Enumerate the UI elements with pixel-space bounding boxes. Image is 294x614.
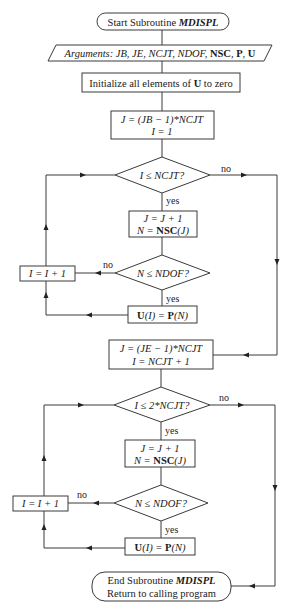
arrow-right-icon (238, 403, 244, 408)
svg-text:N ≤ NDOF?: N ≤ NDOF? (134, 498, 188, 509)
loop1-exit-line (210, 175, 277, 355)
arguments-list: JB, JE, NCJT, NDOF, (116, 48, 210, 59)
svg-text:Start Subroutine MDISPL: Start Subroutine MDISPL (108, 17, 219, 28)
arrow-left-icon (95, 271, 101, 276)
svg-text:J = (JE − 1)*NCJT: J = (JE − 1)*NCJT (120, 343, 204, 355)
svg-text:I = I + 1: I = I + 1 (21, 498, 59, 509)
svg-text:N ≤ NDOF?: N ≤ NDOF? (136, 268, 190, 279)
loop2-check-decision: N ≤ NDOF? (114, 485, 208, 521)
arrow-left-icon (86, 546, 92, 551)
return-label: Return to calling program (107, 588, 216, 599)
loop1-condition-decision: I ≤ NCJT? (115, 157, 210, 193)
svg-text:I = NCJT + 1: I = NCJT + 1 (131, 356, 190, 367)
yes-label: yes (165, 425, 178, 436)
arrow-left-icon (86, 313, 92, 318)
loop1-feedback-line (46, 175, 128, 315)
arrow-left-icon (243, 353, 249, 358)
svg-text:J = J + 1: J = J + 1 (143, 213, 182, 224)
loop2-store-process: U(I) = P(N) (125, 538, 195, 555)
loop2-condition-decision: I ≤ 2*NCJT? (114, 387, 210, 422)
yes-label: yes (166, 195, 179, 206)
svg-text:U(I) = P(N): U(I) = P(N) (137, 310, 188, 322)
arrow-right-icon (78, 403, 84, 408)
arrow-down-icon (275, 259, 280, 265)
loop2-increment-process: I = I + 1 (13, 496, 68, 511)
start-terminal: Start Subroutine MDISPL (97, 13, 229, 30)
svg-text:N = NSC(J): N = NSC(J) (133, 455, 187, 467)
svg-text:J = J + 1: J = J + 1 (140, 443, 179, 454)
end-label: End Subroutine (108, 575, 176, 586)
no-label: no (221, 163, 231, 174)
subroutine-name: MDISPL (178, 17, 219, 28)
loop2-assign-process: J = J + 1 N = NSC(J) (125, 440, 195, 467)
arguments-io: Arguments: JB, JE, NCJT, NDOF, NSC, P, U (48, 45, 272, 61)
loop1-assign-process: J = J + 1 N = NSC(J) (129, 211, 197, 237)
svg-text:End Subroutine MDISPL: End Subroutine MDISPL (108, 575, 216, 586)
arrow-left-icon (93, 501, 99, 506)
yes-label: yes (165, 524, 178, 535)
loop2-exit-line (210, 405, 275, 586)
argument-u: U (248, 48, 256, 59)
svg-text:Initialize all elements of U t: Initialize all elements of U to zero (89, 78, 232, 89)
subroutine-name: MDISPL (175, 575, 216, 586)
flowchart: Start Subroutine MDISPL Arguments: JB, J… (0, 0, 294, 614)
svg-text:Arguments: JB, JE, NCJT, NDOF,: Arguments: JB, JE, NCJT, NDOF, NSC, P, U (64, 48, 256, 59)
svg-text:I = 1: I = 1 (150, 126, 172, 137)
loop1-store-process: U(I) = P(N) (128, 306, 197, 323)
argument-nsc: NSC (210, 48, 231, 59)
no-label: no (103, 259, 113, 270)
svg-text:N = NSC(J): N = NSC(J) (136, 225, 190, 237)
loop1-check-decision: N ≤ NDOF? (115, 255, 210, 290)
svg-text:U(I) = P(N): U(I) = P(N) (135, 542, 186, 554)
arrow-up-icon (44, 292, 49, 298)
no-label: no (77, 489, 87, 500)
arguments-label: Arguments: (64, 48, 116, 59)
loop2-init-process: J = (JE − 1)*NCJT I = NCJT + 1 (109, 340, 213, 369)
loop2-feedback-line (44, 405, 125, 548)
arrow-right-icon (80, 173, 86, 178)
initialize-process: Initialize all elements of U to zero (82, 73, 240, 92)
arrow-left-icon (249, 584, 255, 589)
loop1-init-process: J = (JB − 1)*NCJT I = 1 (111, 111, 214, 139)
arrow-up-icon (42, 524, 47, 530)
end-terminal: End Subroutine MDISPL Return to calling … (92, 572, 231, 601)
arrow-down-icon (273, 485, 278, 491)
no-label: no (219, 392, 229, 403)
svg-text:I ≤ 2*NCJT?: I ≤ 2*NCJT? (134, 400, 191, 411)
arrow-right-icon (241, 173, 247, 178)
start-label: Start Subroutine (108, 17, 179, 28)
yes-label: yes (166, 293, 179, 304)
loop1-increment-process: I = I + 1 (20, 266, 75, 281)
svg-text:I ≤ NCJT?: I ≤ NCJT? (139, 170, 185, 181)
arrow-up-icon (44, 224, 49, 230)
svg-text:J = (JB − 1)*NCJT: J = (JB − 1)*NCJT (121, 114, 205, 126)
arrow-up-icon (42, 455, 47, 461)
svg-text:I = I + 1: I = I + 1 (28, 268, 66, 279)
